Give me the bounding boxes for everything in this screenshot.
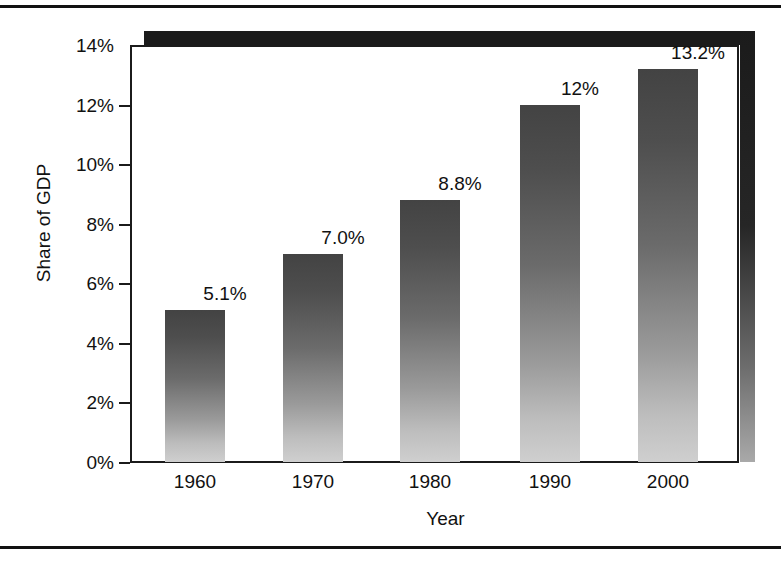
x-tick-label-1980: 1980 (370, 472, 490, 491)
x-tick-label-1970: 1970 (253, 472, 373, 491)
x-axis-title: Year (0, 508, 781, 530)
x-axis-tick-labels: 1960 1970 1980 1990 2000 (0, 0, 781, 562)
x-axis-title-text: Year (426, 508, 464, 529)
x-tick-label-1960: 1960 (135, 472, 255, 491)
bar-chart-figure: 14% 12% 10% 8% 6% 4% 2% 0% Share of GDP … (0, 0, 781, 562)
x-tick-label-1990: 1990 (490, 472, 610, 491)
x-tick-label-2000: 2000 (608, 472, 728, 491)
